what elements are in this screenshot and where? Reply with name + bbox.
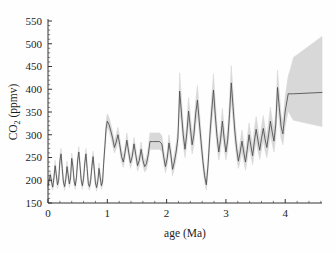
y-tick-label: 400 <box>26 83 43 95</box>
y-tick-label: 250 <box>26 151 43 163</box>
y-tick-label: 450 <box>26 60 43 72</box>
y-tick-label: 150 <box>26 197 43 209</box>
y-tick-label: 300 <box>26 129 43 141</box>
figure-co2-vs-age: 150200250300350400450500550 01234 CO2 (p… <box>0 0 336 253</box>
x-axis-title-label: age (Ma) <box>164 227 206 240</box>
y-tick-label: 550 <box>26 15 43 27</box>
co2-line-chart: 150200250300350400450500550 01234 CO2 (p… <box>0 0 336 253</box>
y-tick-label: 200 <box>26 174 43 186</box>
x-tick-label: 0 <box>45 207 51 219</box>
x-tick-label: 2 <box>164 207 170 219</box>
x-tick-label: 3 <box>223 207 229 219</box>
x-tick-label: 4 <box>282 207 288 219</box>
x-tick-label: 1 <box>105 207 111 219</box>
y-tick-label: 500 <box>26 38 43 50</box>
y-tick-label: 350 <box>26 106 43 118</box>
